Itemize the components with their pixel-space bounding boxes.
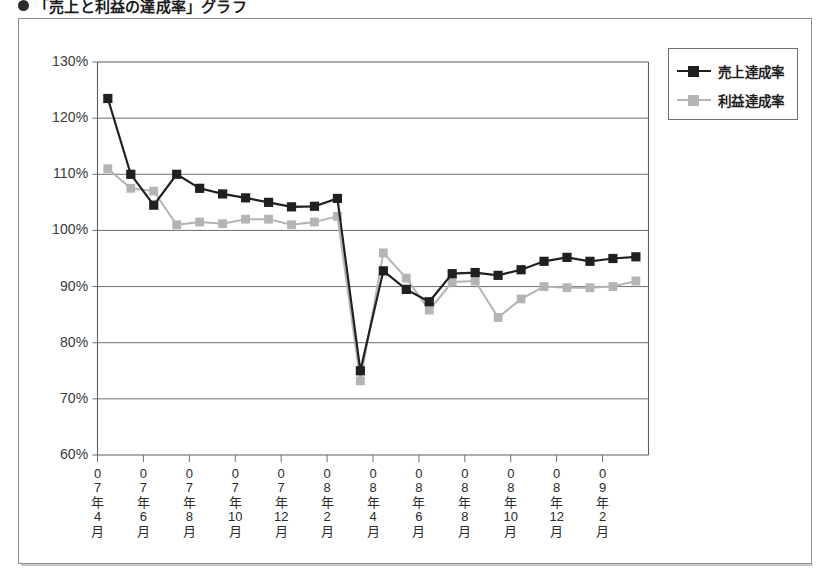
y-axis-tick-label: 120% <box>52 109 89 125</box>
x-axis-tick-label: 07年4月 <box>90 467 106 539</box>
x-axis-tick-label: 07年12月 <box>273 467 289 539</box>
y-axis-tick-label: 110% <box>53 165 89 181</box>
y-axis-tick-label: 100% <box>52 221 89 237</box>
legend-label-sales: 売上達成率 <box>718 61 785 81</box>
y-axis-tick-label: 90% <box>60 278 89 294</box>
legend-item-profit[interactable]: 利益達成率 <box>669 85 797 114</box>
bullet-icon <box>18 0 29 11</box>
x-axis-tick-label: 07年8月 <box>181 467 197 539</box>
x-axis-tick-label: 09年2月 <box>595 467 611 539</box>
x-axis-tick-label: 07年6月 <box>135 467 151 539</box>
figure-heading-text: 「売上と利益の達成率」グラフ <box>34 0 247 16</box>
x-axis-tick-label: 08年4月 <box>365 467 381 539</box>
x-axis-tick-label: 08年12月 <box>549 467 565 539</box>
chart-legend: 売上達成率 利益達成率 <box>668 48 798 120</box>
y-axis-tick-label: 70% <box>60 390 89 406</box>
legend-marker-sales <box>677 65 711 77</box>
x-axis-tick-label: 08年6月 <box>411 467 427 539</box>
legend-label-profit: 利益達成率 <box>718 90 785 110</box>
y-axis-tick-label: 130% <box>52 53 89 69</box>
x-axis-tick-label: 08年2月 <box>319 467 335 539</box>
legend-marker-profit <box>677 94 711 106</box>
figure-heading: 「売上と利益の達成率」グラフ <box>18 0 247 16</box>
legend-item-sales[interactable]: 売上達成率 <box>669 56 797 85</box>
x-axis-tick-label: 08年10月 <box>503 467 519 539</box>
y-axis-tick-label: 60% <box>60 446 89 462</box>
y-axis-tick-label: 80% <box>60 334 89 350</box>
x-axis-tick-label: 07年10月 <box>227 467 243 539</box>
x-axis-tick-label: 08年8月 <box>457 467 473 539</box>
